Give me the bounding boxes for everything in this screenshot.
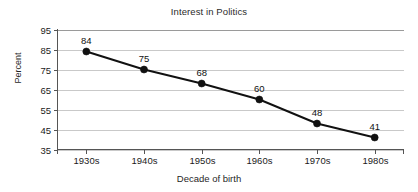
data-point-marker (314, 120, 321, 127)
data-point-labels: 847568604841 (81, 35, 380, 132)
data-point-marker (198, 80, 205, 87)
data-point-marker (371, 134, 378, 141)
y-tick-label: 35 (40, 145, 51, 156)
data-point-label: 60 (254, 83, 265, 94)
data-point-label: 75 (139, 53, 150, 64)
chart-container: Interest in Politics Percent Decade of b… (0, 0, 418, 192)
x-tick-label: 1980s (363, 155, 389, 166)
data-series (83, 48, 378, 141)
data-point-label: 48 (312, 107, 323, 118)
series-line (86, 52, 374, 138)
y-tick-label: 65 (40, 85, 51, 96)
x-tick-label: 1970s (305, 155, 331, 166)
data-point-marker (83, 48, 90, 55)
x-tick-label: 1950s (190, 155, 216, 166)
y-axis-ticks: 35455565758595 (40, 25, 57, 156)
x-tick-label: 1930s (74, 155, 100, 166)
data-point-label: 68 (196, 67, 207, 78)
data-point-marker (141, 66, 148, 73)
y-tick-label: 85 (40, 45, 51, 56)
plot-area: 35455565758595 1930s1940s1950s1960s1970s… (0, 0, 418, 192)
y-tick-label: 45 (40, 125, 51, 136)
data-point-label: 41 (369, 121, 380, 132)
y-tick-label: 75 (40, 65, 51, 76)
data-point-marker (256, 96, 263, 103)
x-tick-label: 1960s (247, 155, 273, 166)
data-point-label: 84 (81, 35, 92, 46)
y-tick-label: 95 (40, 25, 51, 36)
x-tick-label: 1940s (132, 155, 158, 166)
y-tick-label: 55 (40, 105, 51, 116)
x-axis-ticks: 1930s1940s1950s1960s1970s1980s (74, 150, 389, 167)
